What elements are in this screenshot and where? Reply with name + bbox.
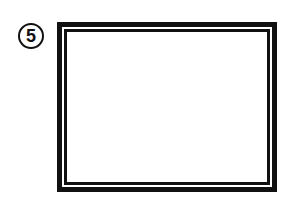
- frame-gap-line: [62, 27, 272, 187]
- frame-blank-area: [67, 32, 267, 182]
- step-number-badge: 5: [18, 23, 44, 49]
- frame-inner-border: [64, 29, 270, 185]
- double-border-frame: [57, 22, 277, 192]
